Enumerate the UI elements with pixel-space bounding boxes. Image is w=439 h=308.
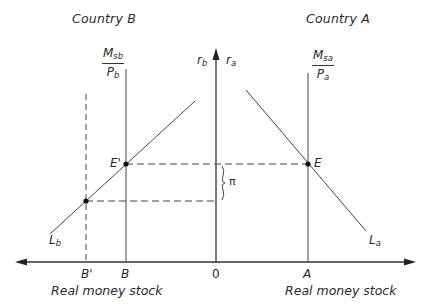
pi-brace-icon [222,166,225,200]
e-label: E [314,157,322,169]
ra-axis-label: ra [226,54,236,68]
pi-label: π [229,176,236,187]
point-e [305,161,310,166]
point-lower [83,198,88,203]
right-arrow-icon [404,259,416,266]
tick-b: B [121,268,129,280]
x-axis-label-right: Real money stock [285,285,396,298]
point-e-prime [123,161,128,166]
country-a-title: Country A [306,13,370,26]
tick-origin: 0 [212,268,220,280]
diagram-canvas [0,0,439,308]
la-curve [246,90,366,231]
money-supply-a-label: Msa Pa [312,49,334,81]
x-axis-label-left: Real money stock [51,285,162,298]
tick-a: A [303,268,311,280]
tick-b-prime: B' [81,268,93,280]
up-arrow-icon [213,48,220,60]
country-b-title: Country B [72,13,136,26]
rb-axis-label: rb [197,54,207,68]
e-prime-label: E' [110,157,121,169]
money-supply-b-label: Msb Pb [102,47,124,79]
lb-curve [50,101,195,234]
left-arrow-icon [15,259,27,266]
la-label: La [369,234,381,248]
lb-label: Lb [49,234,61,248]
